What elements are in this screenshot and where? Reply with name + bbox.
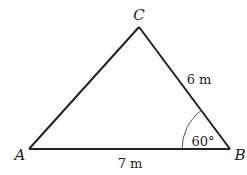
side-bc bbox=[139, 27, 230, 149]
vertex-label-b: B bbox=[233, 146, 245, 164]
vertex-label-c: C bbox=[133, 6, 145, 24]
side-ca bbox=[29, 27, 139, 149]
vertex-label-a: A bbox=[13, 146, 26, 164]
side-label-ab: 7 m bbox=[118, 156, 143, 171]
triangle-diagram: C A B 6 m 7 m 60° bbox=[0, 0, 247, 175]
angle-label-b: 60° bbox=[191, 134, 214, 149]
side-label-bc: 6 m bbox=[187, 72, 212, 87]
